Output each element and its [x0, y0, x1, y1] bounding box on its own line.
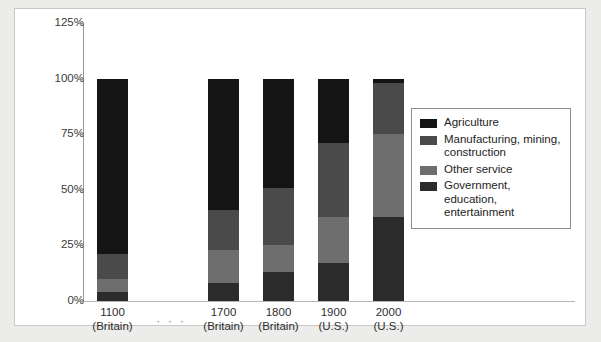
figure-root: 125%100%75%50%25%0% 1100(Britain)1700(Br…	[0, 0, 601, 342]
legend-swatch-icon	[420, 119, 437, 128]
legend-label: Other service	[444, 163, 512, 177]
y-tick-label: 125%	[26, 17, 84, 28]
y-tick-label: 50%	[26, 184, 84, 195]
y-tick-mark	[77, 23, 84, 24]
bar-segment	[208, 283, 239, 301]
legend-label: Manufacturing, mining, construction	[444, 133, 562, 160]
bar-segment	[208, 210, 239, 250]
bar-segment	[318, 217, 349, 264]
bar-segment	[97, 292, 128, 301]
bar-segment	[318, 263, 349, 301]
bar-segment	[263, 245, 294, 272]
y-tick-mark	[77, 79, 84, 80]
y-tick-mark	[77, 301, 84, 302]
legend-swatch-icon	[420, 136, 437, 145]
bar-segment	[263, 272, 294, 301]
bar-segment	[263, 188, 294, 246]
bar-1900[interactable]	[318, 79, 349, 301]
y-tick-label: 75%	[26, 128, 84, 139]
y-tick-mark	[77, 245, 84, 246]
legend-item[interactable]: Other service	[420, 163, 562, 177]
bar-segment	[208, 250, 239, 283]
bar-segment	[373, 134, 404, 216]
y-tick-mark	[77, 190, 84, 191]
bar-segment	[263, 79, 294, 188]
bar-1100[interactable]	[97, 79, 128, 301]
x-label-2000: 2000(U.S.)	[344, 305, 434, 333]
bar-segment	[318, 79, 349, 143]
legend-swatch-icon	[420, 182, 437, 191]
x-axis-baseline	[83, 301, 575, 302]
x-label-year: 1900	[321, 306, 347, 318]
legend-swatch-icon	[420, 166, 437, 175]
legend-item[interactable]: Agriculture	[420, 116, 562, 130]
bar-segment	[373, 83, 404, 134]
bar-2000[interactable]	[373, 79, 404, 301]
legend-item[interactable]: Manufacturing, mining, construction	[420, 133, 562, 160]
y-axis-line	[83, 23, 84, 301]
y-tick-label: 25%	[26, 239, 84, 250]
axis-break-marker: · · ·	[141, 313, 201, 328]
bar-segment	[97, 254, 128, 278]
legend-box: AgricultureManufacturing, mining, constr…	[411, 108, 571, 229]
y-tick-label: 100%	[26, 73, 84, 84]
bar-segment	[318, 143, 349, 216]
x-label-year: 1700	[211, 306, 237, 318]
x-label-region: (U.S.)	[344, 319, 434, 333]
chart-card: 125%100%75%50%25%0% 1100(Britain)1700(Br…	[14, 8, 586, 326]
y-tick-mark	[77, 134, 84, 135]
x-label-year: 2000	[376, 306, 402, 318]
legend-item[interactable]: Government, education, entertainment	[420, 179, 562, 220]
bar-segment	[97, 279, 128, 292]
plot-area: 125%100%75%50%25%0% 1100(Britain)1700(Br…	[15, 9, 587, 327]
x-label-year: 1800	[266, 306, 292, 318]
bar-segment	[97, 79, 128, 255]
x-label-year: 1100	[100, 306, 125, 318]
bar-segment	[208, 79, 239, 210]
bar-1700[interactable]	[208, 79, 239, 301]
bar-segment	[373, 217, 404, 302]
bar-1800[interactable]	[263, 79, 294, 301]
legend-label: Agriculture	[444, 116, 499, 130]
legend-label: Government, education, entertainment	[444, 179, 562, 220]
